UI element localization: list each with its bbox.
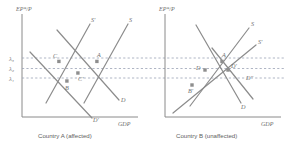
point-label-a-right: A: [221, 51, 226, 58]
curve-label-supply-a: S: [129, 16, 132, 23]
curve-demand-shifted-a: [30, 52, 92, 118]
point-marker-c-left: [57, 60, 60, 63]
tick-label-lambda1: λ₁: [8, 75, 14, 82]
y-axis-label-left: EP*/P: [15, 6, 32, 12]
point-label-bprime-right: B': [188, 87, 194, 94]
point-marker-a-right: [220, 60, 223, 63]
curve-supply-a: [84, 24, 128, 103]
point-label-cprime-left: C': [78, 75, 84, 82]
point-label-b-left: B: [65, 84, 69, 91]
x-axis-label-right: GDP: [261, 121, 274, 127]
x-axis-label-left: GDP: [118, 121, 131, 127]
curve-supply-shifted-a: [46, 24, 90, 103]
tick-label-lambda2: λ₂: [8, 65, 15, 72]
economics-diagram-figure: A C C' B S' S D' D EP*/P GDP λ₃ λ₂ λ₁ Co…: [0, 0, 286, 144]
panel-country-b: A D D' B' S S' D D'' EP*/P GDP Country B…: [158, 6, 281, 139]
curve-label-supply-shifted-b: S': [258, 38, 263, 45]
curve-label-demand-b: D: [240, 103, 246, 110]
point-marker-dprime-right: [226, 68, 229, 71]
diagram-canvas: A C C' B S' S D' D EP*/P GDP λ₃ λ₂ λ₁ Co…: [0, 0, 286, 144]
panel-country-a: A C C' B S' S D' D EP*/P GDP λ₃ λ₂ λ₁ Co…: [8, 6, 286, 139]
curve-label-demand-shifted2-b: D'': [245, 74, 254, 81]
point-marker-b-left: [65, 79, 68, 82]
point-marker-d-right: [203, 68, 206, 71]
curve-label-supply-shifted-a: S': [91, 16, 96, 23]
point-label-a-left: A: [96, 51, 101, 58]
curve-label-supply-b: S: [251, 20, 254, 27]
caption-country-b: Country B (unaffected): [176, 132, 237, 139]
y-axis-label-right: EP*/P: [158, 6, 175, 12]
caption-country-a: Country A (affected): [38, 132, 92, 139]
point-label-d-right: D: [195, 64, 201, 71]
curve-label-demand-shifted-a: D': [92, 116, 99, 123]
tick-label-lambda3: λ₃: [8, 55, 14, 62]
point-marker-a-left: [95, 60, 98, 63]
point-label-dprime-right: D': [230, 62, 237, 69]
curve-label-demand-a: D: [120, 96, 126, 103]
